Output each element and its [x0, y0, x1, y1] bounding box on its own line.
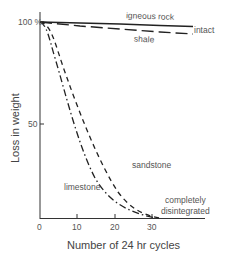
y-tick-label-50: 50 [28, 120, 37, 129]
label-igneous-rock: igneous rock [126, 11, 174, 21]
x-tick-label-0: 0 [37, 223, 42, 232]
x-axis-title: Number of 24 hr cycles [67, 240, 180, 251]
y-axis-title: Loss in weight [10, 93, 21, 163]
label-disintegrated: disintegrated [161, 207, 210, 216]
label-limestone: limestone [64, 183, 100, 192]
label-completely: completely [165, 196, 206, 205]
x-tick-label-10: 10 [72, 223, 81, 232]
x-tick-label-30: 30 [147, 223, 156, 232]
x-tick-label-20: 20 [110, 223, 119, 232]
label-intact: intact [194, 26, 214, 35]
y-tick-label-100: 100 % [18, 18, 42, 27]
label-shale: shale [134, 34, 155, 44]
label-sandstone: sandstone [132, 161, 171, 170]
